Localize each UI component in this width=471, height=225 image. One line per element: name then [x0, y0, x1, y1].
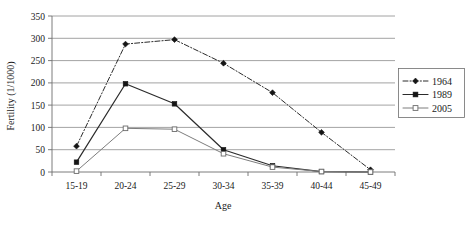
x-tick-label-45-49: 45-49	[359, 181, 381, 191]
legend-marker-2005-icon	[413, 106, 418, 111]
x-tick-marks	[52, 172, 395, 176]
data-point-1964-25-29	[172, 37, 178, 43]
y-tick-marks	[48, 16, 52, 172]
x-tick-label-25-29: 25-29	[163, 181, 185, 191]
data-point-1989-15-19	[74, 160, 79, 165]
x-tick-labels: 15-19 20-24 25-29 30-34 35-39 40-44 45-4…	[65, 181, 381, 191]
data-point-1964-20-24	[123, 41, 129, 47]
data-point-2005-35-39	[270, 165, 275, 170]
fertility-by-age-chart: Fertility (1/1000)	[0, 0, 471, 225]
data-point-2005-30-34	[221, 151, 226, 156]
data-point-1964-15-19	[74, 143, 80, 149]
legend-label-1989: 1989	[432, 89, 452, 100]
y-tick-label-150: 150	[31, 101, 46, 111]
x-axis-title-text: Age	[215, 200, 232, 211]
chart-canvas: Fertility (1/1000)	[0, 0, 471, 225]
data-point-2005-40-44	[319, 169, 324, 174]
x-tick-label-40-44: 40-44	[310, 181, 332, 191]
data-series-layer	[74, 37, 374, 175]
x-tick-label-35-39: 35-39	[261, 181, 283, 191]
data-point-2005-25-29	[172, 127, 177, 132]
data-point-2005-20-24	[123, 126, 128, 131]
y-axis-title-text: Fertility (1/1000)	[5, 61, 17, 130]
y-tick-label-300: 300	[31, 34, 46, 44]
legend: 1964 1989 2005	[399, 69, 465, 118]
y-tick-label-0: 0	[40, 168, 45, 178]
series-line-1989	[77, 84, 371, 172]
data-point-2005-45-49	[368, 170, 373, 175]
x-tick-label-30-34: 30-34	[212, 181, 234, 191]
x-tick-label-20-24: 20-24	[114, 181, 136, 191]
series-1989	[74, 81, 373, 174]
y-tick-label-200: 200	[31, 78, 46, 88]
y-tick-label-250: 250	[31, 56, 46, 66]
y-tick-label-100: 100	[31, 123, 46, 133]
x-tick-label-15-19: 15-19	[65, 181, 87, 191]
legend-label-2005: 2005	[432, 103, 452, 114]
legend-marker-1989-icon	[413, 92, 418, 97]
y-tick-labels: 350 300 250 200 150 100 50 0	[31, 12, 46, 178]
y-tick-label-50: 50	[36, 145, 46, 155]
legend-label-1964: 1964	[432, 76, 452, 87]
data-point-1989-25-29	[172, 102, 177, 107]
data-point-1964-30-34	[221, 60, 227, 66]
data-point-1989-20-24	[123, 81, 128, 86]
data-point-2005-15-19	[74, 169, 79, 174]
y-axis-title: Fertility (1/1000)	[5, 61, 17, 130]
gridlines	[52, 16, 395, 150]
y-tick-label-350: 350	[31, 12, 46, 22]
